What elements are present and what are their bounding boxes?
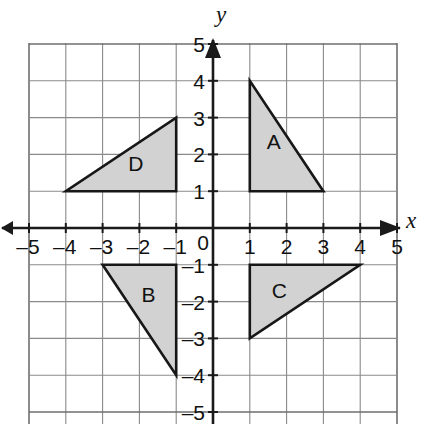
y-tick-label: 4 [193, 70, 205, 93]
x-tick-label: –3 [90, 235, 113, 258]
x-tick-label: 3 [318, 235, 330, 258]
coordinate-plane-figure: ACBD –5–4–3–2–112345–5–4–3–2–1123450 x y [0, 0, 434, 440]
plot-svg: ACBD –5–4–3–2–112345–5–4–3–2–1123450 x y [0, 0, 434, 440]
x-tick-label: 2 [281, 235, 293, 258]
y-tick-label: –2 [182, 291, 205, 314]
origin-label: 0 [197, 231, 209, 254]
y-tick-label: –1 [182, 254, 205, 277]
y-axis-label: y [214, 2, 227, 27]
y-axis-arrow-up-icon [205, 38, 221, 58]
y-tick-label: –3 [182, 327, 205, 350]
x-tick-label: 4 [354, 235, 366, 258]
y-tick-label: –5 [182, 401, 205, 424]
x-tick-label: –5 [16, 235, 39, 258]
x-tick-label: –4 [53, 235, 77, 258]
x-tick-label: 1 [244, 235, 256, 258]
triangle-label-a: A [267, 130, 281, 153]
y-tick-label: 2 [193, 143, 205, 166]
y-tick-label: 5 [193, 33, 205, 56]
x-tick-label: 5 [391, 235, 403, 258]
y-tick-label: –4 [182, 364, 206, 387]
triangle-label-d: D [128, 152, 143, 175]
x-axis-label: x [405, 208, 417, 233]
triangle-label-c: C [272, 279, 287, 302]
x-tick-label: –2 [127, 235, 150, 258]
triangle-label-b: B [142, 283, 156, 306]
y-tick-label: 3 [193, 107, 205, 130]
x-axis-arrow-left-icon [1, 221, 13, 235]
y-tick-label: 1 [193, 180, 205, 203]
